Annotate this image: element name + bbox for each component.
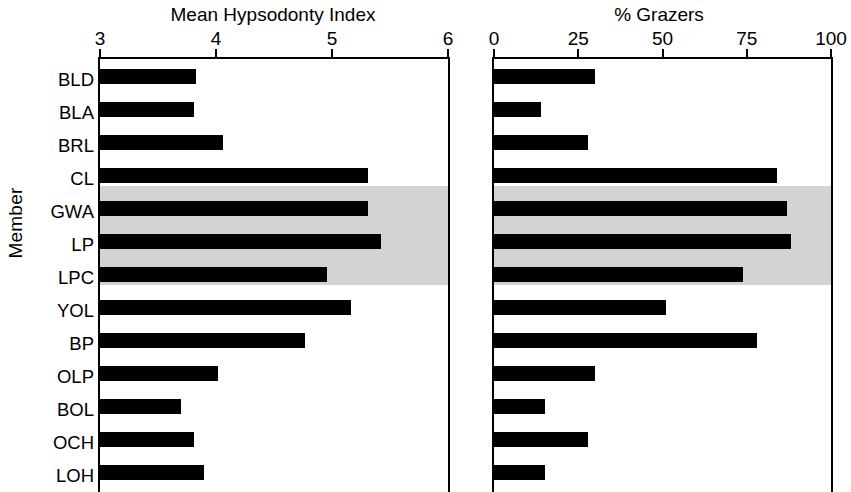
bar-hypsodonty-bla bbox=[100, 102, 194, 117]
panel-title-hypsodonty: Mean Hypsodonty Index bbox=[93, 4, 453, 26]
member-label-bol: BOL bbox=[57, 393, 94, 426]
bar-hypsodonty-lp bbox=[100, 234, 381, 249]
bar-hypsodonty-olp bbox=[100, 366, 218, 381]
bar-grazers-brl bbox=[494, 135, 588, 150]
bar-grazers-yol bbox=[494, 300, 666, 315]
member-label-column: BLDBLABRLCLGWALPLPCYOLBPOLPBOLOCHLOH bbox=[18, 63, 94, 492]
member-label-bla: BLA bbox=[59, 96, 94, 129]
bar-grazers-cl bbox=[494, 168, 777, 183]
x-tickmarks-above-hypsodonty bbox=[95, 47, 455, 57]
x-tickmark-hypsodonty-3 bbox=[99, 49, 101, 57]
x-tickmark-hypsodonty-6 bbox=[447, 49, 449, 57]
bar-hypsodonty-loh bbox=[100, 465, 204, 480]
bar-hypsodonty-bol bbox=[100, 399, 181, 414]
bar-hypsodonty-och bbox=[100, 432, 194, 447]
bar-grazers-loh bbox=[494, 465, 545, 480]
member-label-bld: BLD bbox=[58, 63, 94, 96]
x-tickmark-hypsodonty-5 bbox=[331, 49, 333, 57]
bar-grazers-bol bbox=[494, 399, 545, 414]
bar-hypsodonty-bp bbox=[100, 333, 305, 348]
plot-area-grazers bbox=[492, 57, 833, 492]
bars-layer-hypsodonty bbox=[100, 59, 448, 492]
plot-area-hypsodonty bbox=[98, 57, 450, 492]
bar-grazers-bla bbox=[494, 102, 541, 117]
panel-grazers: % Grazers 0255075100 bbox=[485, 0, 845, 492]
bar-grazers-olp bbox=[494, 366, 595, 381]
bar-hypsodonty-yol bbox=[100, 300, 351, 315]
panel-title-grazers: % Grazers bbox=[479, 4, 839, 26]
member-label-yol: YOL bbox=[57, 294, 94, 327]
bar-grazers-och bbox=[494, 432, 588, 447]
x-tickmark-hypsodonty-4 bbox=[215, 49, 217, 57]
member-label-lp: LP bbox=[71, 228, 94, 261]
member-label-gwa: GWA bbox=[50, 195, 94, 228]
bar-grazers-lp bbox=[494, 234, 791, 249]
x-tickmark-grazers-100 bbox=[830, 49, 832, 57]
member-label-brl: BRL bbox=[58, 129, 94, 162]
member-label-och: OCH bbox=[53, 426, 94, 459]
bar-hypsodonty-brl bbox=[100, 135, 223, 150]
x-tickmark-grazers-0 bbox=[493, 49, 495, 57]
member-label-loh: LOH bbox=[56, 459, 94, 492]
member-label-cl: CL bbox=[70, 162, 94, 195]
x-tickmark-grazers-75 bbox=[746, 49, 748, 57]
figure-container: Member BLDBLABRLCLGWALPLPCYOLBPOLPBOLOCH… bbox=[0, 0, 851, 492]
bars-layer-grazers bbox=[494, 59, 831, 492]
bar-hypsodonty-cl bbox=[100, 168, 368, 183]
bar-grazers-bp bbox=[494, 333, 757, 348]
bar-grazers-bld bbox=[494, 69, 595, 84]
bar-hypsodonty-gwa bbox=[100, 201, 368, 216]
panel-hypsodonty: Mean Hypsodonty Index 3456 bbox=[95, 0, 455, 492]
member-label-lpc: LPC bbox=[58, 261, 94, 294]
bar-grazers-lpc bbox=[494, 267, 743, 282]
x-tickmarks-above-grazers bbox=[485, 47, 845, 57]
x-tickmark-grazers-50 bbox=[662, 49, 664, 57]
bar-grazers-gwa bbox=[494, 201, 787, 216]
member-label-olp: OLP bbox=[57, 360, 94, 393]
member-label-bp: BP bbox=[69, 327, 94, 360]
bar-hypsodonty-lpc bbox=[100, 267, 327, 282]
x-tickmark-grazers-25 bbox=[577, 49, 579, 57]
bar-hypsodonty-bld bbox=[100, 69, 196, 84]
